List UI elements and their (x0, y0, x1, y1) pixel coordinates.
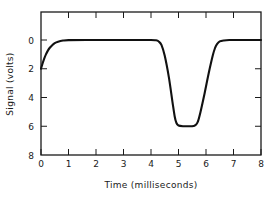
y-tick-labels: 0 2 4 6 8 (28, 36, 34, 161)
y-tick-label: 8 (28, 151, 34, 161)
x-axis-ticks-top (69, 12, 234, 18)
x-axis-title: Time (milliseconds) (103, 180, 197, 190)
x-tick-label: 6 (203, 159, 209, 169)
x-tick-label: 5 (176, 159, 182, 169)
plot-frame (41, 12, 261, 155)
x-tick-label: 0 (38, 159, 44, 169)
y-axis-title: Signal (volts) (5, 52, 15, 115)
signal-vs-time-plot: 0 1 2 3 4 5 6 7 8 0 2 4 6 8 Time (millis… (0, 0, 274, 197)
y-tick-label: 0 (28, 36, 34, 46)
x-tick-label: 7 (231, 159, 237, 169)
signal-curve (41, 40, 261, 126)
y-axis-ticks-right (255, 40, 261, 126)
y-tick-label: 4 (28, 93, 34, 103)
x-tick-label: 8 (258, 159, 264, 169)
y-tick-label: 6 (28, 122, 34, 132)
x-axis-ticks-bottom (41, 149, 261, 155)
x-tick-labels: 0 1 2 3 4 5 6 7 8 (38, 159, 264, 169)
y-tick-label: 2 (28, 64, 34, 74)
x-tick-label: 3 (121, 159, 127, 169)
chart-figure: 0 1 2 3 4 5 6 7 8 0 2 4 6 8 Time (millis… (0, 0, 274, 197)
x-tick-label: 4 (148, 159, 154, 169)
x-tick-label: 2 (93, 159, 99, 169)
x-tick-label: 1 (66, 159, 72, 169)
